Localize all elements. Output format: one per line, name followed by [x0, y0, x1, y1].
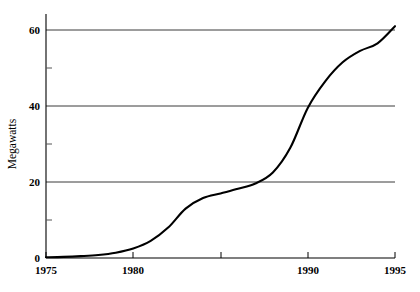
y-tick-label-40: 40 [29, 100, 41, 112]
x-tick-label-1990: 1990 [297, 264, 320, 276]
y-axis-tick-labels: 60 40 20 0 [29, 24, 41, 264]
chart-container: 60 40 20 0 1975 1980 1990 1995 Megawatts [0, 0, 420, 292]
y-tick-label-20: 20 [29, 176, 41, 188]
x-tick-label-1980: 1980 [122, 264, 145, 276]
line-chart: 60 40 20 0 1975 1980 1990 1995 Megawatts [0, 0, 420, 292]
y-tick-label-60: 60 [29, 24, 41, 36]
y-tick-label-0: 0 [35, 252, 41, 264]
data-line-installed-capacity [46, 26, 395, 257]
x-tick-label-1975: 1975 [35, 264, 58, 276]
y-axis-minor-ticks [46, 68, 52, 220]
x-axis-tick-labels: 1975 1980 1990 1995 [35, 264, 407, 276]
axis-spines [46, 14, 395, 258]
y-axis-title: Megawatts [6, 118, 19, 169]
x-tick-label-1995: 1995 [384, 264, 407, 276]
gridlines [46, 30, 395, 182]
